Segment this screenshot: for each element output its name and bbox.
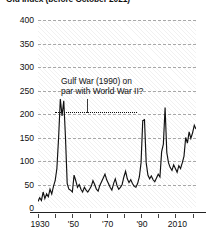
x-tick-label-1950: '50 (68, 220, 79, 229)
x-tick-2010 (175, 214, 176, 218)
x-tick-1980 (124, 214, 125, 218)
comparison-dotted-line (55, 112, 137, 113)
y-tick-label-300: 300 (2, 63, 34, 72)
annotation-gulf-war: Gulf War (1990) on par with World War II… (61, 77, 143, 96)
series-line-old-index (38, 20, 196, 208)
x-tick-label-2010: 2010 (168, 220, 187, 229)
y-tick-label-200: 200 (2, 110, 34, 119)
x-tick-label-1990: '90 (136, 220, 147, 229)
x-tick-2020 (193, 214, 194, 218)
x-tick-label-1970: '70 (102, 220, 113, 229)
y-tick-label-50: 50 (2, 181, 34, 190)
x-tick-1940 (55, 214, 56, 218)
chart-container: Old Index (before October 2021) 400 350 … (0, 0, 215, 240)
y-tick-label-350: 350 (2, 40, 34, 49)
y-tick-label-150: 150 (2, 134, 34, 143)
plot-area (38, 20, 196, 208)
annotation-leader-line (87, 99, 88, 113)
x-tick-1950 (72, 214, 73, 218)
x-tick-1960 (90, 214, 91, 218)
x-tick-1970 (107, 214, 108, 218)
x-tick-2000 (158, 214, 159, 218)
y-tick-label-250: 250 (2, 87, 34, 96)
x-axis-line (30, 212, 206, 213)
x-tick-label-1930: 1930 (30, 220, 49, 229)
chart-title: Old Index (before October 2021) (6, 0, 215, 4)
annotation-line-2: par with World War II? (61, 87, 143, 97)
y-tick-label-100: 100 (2, 157, 34, 166)
x-tick-1930 (38, 214, 39, 218)
y-axis: 400 350 300 250 200 150 100 50 0 (0, 20, 34, 208)
x-tick-1990 (141, 214, 142, 218)
y-tick-label-400: 400 (2, 16, 34, 25)
